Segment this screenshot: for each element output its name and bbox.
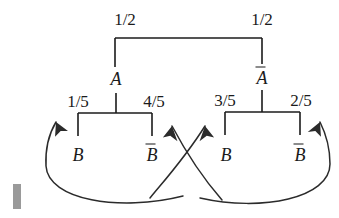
node-a-bar: A: [257, 68, 268, 87]
arrowhead-to-left-prob-1: [51, 120, 68, 137]
leaf-b-bar-left-text: B: [147, 145, 158, 164]
node-a-bar-text: A: [257, 68, 268, 87]
left-probability-2: 4/5: [143, 93, 165, 110]
top-right-probability: 1/2: [251, 11, 273, 28]
leaf-b-bar-right-text: B: [295, 145, 306, 164]
scan-artifact-mark: [13, 184, 21, 209]
tree-drawing: [0, 0, 339, 218]
diagram-canvas: 1/2 1/2 A A 1/5 4/5 3/5 2/5 B B B B: [0, 0, 339, 218]
arrow-curve-left-outer: [46, 122, 183, 203]
node-a: A: [111, 70, 122, 88]
right-probability-1: 3/5: [214, 92, 236, 109]
arrowhead-to-left-prob-2: [163, 125, 180, 141]
right-probability-2: 2/5: [290, 92, 312, 109]
left-probability-1: 1/5: [67, 93, 89, 110]
leaf-b-bar-right: B: [295, 145, 306, 164]
leaf-b-right: B: [221, 146, 232, 164]
top-left-probability: 1/2: [114, 11, 136, 28]
leaf-b-left: B: [73, 146, 84, 164]
leaf-b-bar-left: B: [147, 145, 158, 164]
arrow-curve-right-outer: [200, 122, 330, 203]
